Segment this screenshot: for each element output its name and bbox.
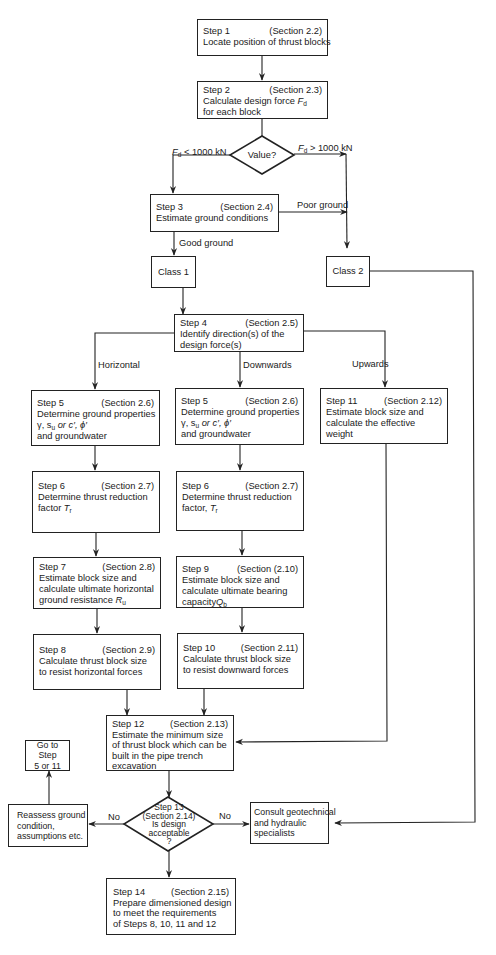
- node-class2: Class 2: [326, 256, 370, 287]
- section-ref: (Section 2.12): [384, 396, 442, 407]
- node-text: Estimate ground conditions: [156, 213, 273, 224]
- edge-label-poor-ground: Poor ground: [297, 200, 348, 211]
- node-text: to resist downward forces: [183, 665, 298, 676]
- node-step10: Step 10(Section 2.11) Calculate thrust b…: [177, 633, 304, 689]
- edge-label-no-right: No: [219, 811, 231, 822]
- section-ref: (Section 2.9): [102, 645, 155, 656]
- node-text: Class 2: [332, 266, 363, 277]
- step-label: Step 1: [203, 26, 230, 37]
- node-text: specialists: [254, 828, 325, 839]
- node-text: for each block: [203, 107, 322, 118]
- node-text: Calculate thrust block size: [183, 654, 298, 665]
- step-label: Step 7: [39, 562, 66, 573]
- node-text: calculate the effective: [326, 418, 442, 429]
- section-ref: (Section 2.2): [269, 26, 322, 37]
- node-text: Determine thrust reduction: [182, 492, 298, 503]
- node-text: and hydraulic: [254, 818, 325, 829]
- node-step6-downwards: Step 6(Section 2.7) Determine thrust red…: [176, 471, 304, 531]
- decision-step13-label: Step 13 (Section 2.14) Is design accepta…: [138, 803, 200, 846]
- node-text: ground resistance Ru: [39, 595, 155, 606]
- step-label: Step 6: [182, 481, 209, 492]
- edge-label-fd-less: Fd < 1000 kN: [172, 147, 227, 158]
- node-text: γ, su or c′, ϕ′: [181, 418, 298, 429]
- section-ref: (Section 2.15): [171, 887, 229, 898]
- node-text: Estimate block size and: [326, 407, 442, 418]
- node-step14: Step 14(Section 2.15) Prepare dimensione…: [106, 878, 236, 935]
- step-label: Step 4: [180, 318, 207, 329]
- node-text: capacityQb: [182, 597, 298, 608]
- node-text: built in the pipe trench: [112, 751, 228, 762]
- node-text: factor Tr: [38, 503, 154, 514]
- node-step2: Step 2(Section 2.3) Calculate design for…: [197, 81, 328, 119]
- section-ref: (Section 2.6): [101, 398, 154, 409]
- edge-decision-step3: [173, 155, 230, 193]
- node-text: to resist horizontal forces: [39, 667, 155, 678]
- edge-label-no-left: No: [108, 812, 120, 823]
- step-label: Step 12: [112, 719, 144, 730]
- node-text: Estimate the minimum size: [112, 730, 228, 741]
- node-step1: Step 1(Section 2.2) Locate position of t…: [197, 19, 328, 56]
- node-text: Class 1: [158, 267, 189, 278]
- node-text: γ, su or c′, ϕ′: [37, 420, 154, 431]
- step-label: Step 9: [182, 564, 209, 575]
- section-ref: (Section 2.6): [245, 396, 298, 407]
- node-text: design force(s): [180, 340, 298, 351]
- step-label: Step 3: [156, 202, 183, 213]
- node-step11: Step 11(Section 2.12) Estimate block siz…: [320, 388, 448, 444]
- node-text: Determine ground properties: [37, 409, 154, 420]
- node-text: factor, Tr: [182, 503, 298, 514]
- section-ref: (Section 2.7): [101, 481, 154, 492]
- section-ref: (Section 2.11): [241, 643, 298, 654]
- node-step12: Step 12(Section 2.13) Estimate the minim…: [106, 715, 234, 771]
- edge-class2-consult: [335, 271, 475, 823]
- section-ref: (Section 2.5): [245, 318, 298, 329]
- node-step3: Step 3(Section 2.4) Estimate ground cond…: [150, 194, 279, 232]
- node-text: and groundwater: [181, 429, 298, 440]
- node-text: weight: [326, 429, 442, 440]
- step-label: Step 6: [38, 481, 65, 492]
- node-text: Identify direction(s) of the: [180, 329, 298, 340]
- node-step4: Step 4(Section 2.5) Identify direction(s…: [174, 314, 304, 352]
- edge-label-fd-greater: Fd > 1000 kN: [298, 143, 353, 154]
- node-text: 5 or 11: [34, 761, 61, 772]
- node-text: Estimate block size and: [39, 573, 155, 584]
- decision-value-label: Value?: [246, 150, 278, 160]
- step-label: Step 5: [181, 396, 208, 407]
- node-class1: Class 1: [151, 256, 196, 288]
- edge-label-good-ground: Good ground: [179, 238, 233, 249]
- section-ref: (Section (2.10): [237, 564, 298, 575]
- node-text: assumptions etc.: [17, 831, 79, 842]
- edge-label-downwards: Downwards: [243, 360, 292, 371]
- node-step5-horizontal: Step 5(Section 2.6) Determine ground pro…: [31, 390, 160, 446]
- section-ref: (Section 2.3): [269, 85, 322, 96]
- step-label: Step 11: [326, 396, 357, 407]
- section-ref: (Section 2.7): [245, 481, 298, 492]
- node-step9: Step 9(Section (2.10) Estimate block siz…: [176, 556, 304, 608]
- node-text: of Steps 8, 10, 11 and 12: [113, 919, 229, 930]
- node-text: calculate ultimate horizontal: [39, 584, 155, 595]
- edge-label-upwards: Upwards: [352, 359, 389, 370]
- node-text: Locate position of thrust blocks: [203, 37, 322, 48]
- section-ref: (Section 2.4): [220, 202, 273, 213]
- node-text: Prepare dimensioned design: [113, 898, 229, 909]
- node-text: Calculate design force Fd: [203, 96, 322, 107]
- node-text: and groundwater: [37, 431, 154, 442]
- node-text: of thrust block which can be: [112, 740, 228, 751]
- node-consult-specialists: Consult geotechnical and hydraulic speci…: [250, 802, 329, 844]
- node-text: calculate ultimate bearing: [182, 586, 298, 597]
- node-step8: Step 8(Section 2.9) Calculate thrust blo…: [33, 634, 161, 690]
- section-ref: (Section 2.13): [170, 719, 228, 730]
- node-text: Determine thrust reduction: [38, 492, 154, 503]
- node-text: excavation: [112, 761, 228, 772]
- step-label: Step 5: [37, 398, 64, 409]
- node-step6-horizontal: Step 6(Section 2.7) Determine thrust red…: [32, 471, 160, 533]
- node-text: Estimate block size and: [182, 575, 298, 586]
- step-label: Step 8: [39, 645, 66, 656]
- node-step7: Step 7(Section 2.8) Estimate block size …: [33, 557, 161, 609]
- node-reassess: Reassess ground condition, assumptions e…: [8, 804, 88, 847]
- node-text: to meet the requirements: [113, 908, 229, 919]
- step-label: Step 14: [113, 887, 145, 898]
- node-text: Consult geotechnical: [254, 807, 325, 818]
- step-label: Step 10: [183, 643, 215, 654]
- node-goto-step: Go to Step 5 or 11: [25, 740, 70, 771]
